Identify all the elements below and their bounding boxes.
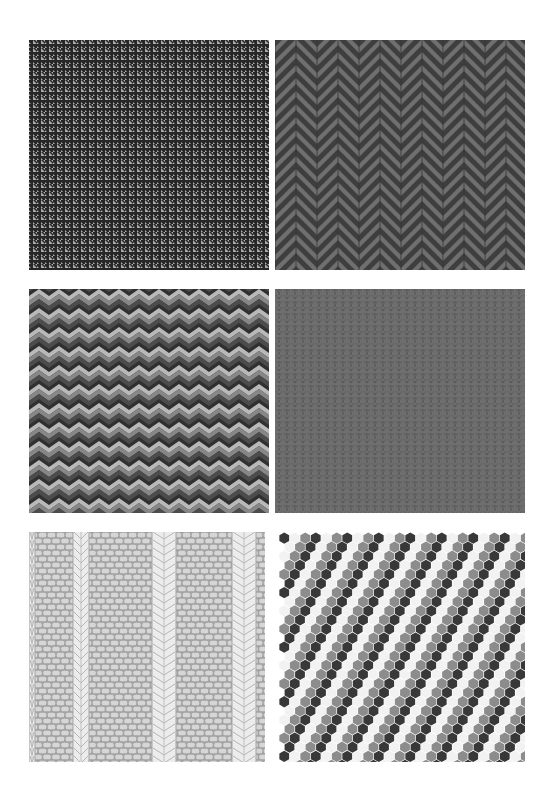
stockinette-knit-swatch	[275, 289, 525, 513]
bargello-swatch	[29, 289, 269, 513]
hexagon-tile-swatch	[279, 532, 525, 762]
cable-knit-swatch	[29, 532, 265, 762]
herringbone-swatch	[275, 40, 525, 270]
houndstooth-swatch	[29, 40, 269, 270]
